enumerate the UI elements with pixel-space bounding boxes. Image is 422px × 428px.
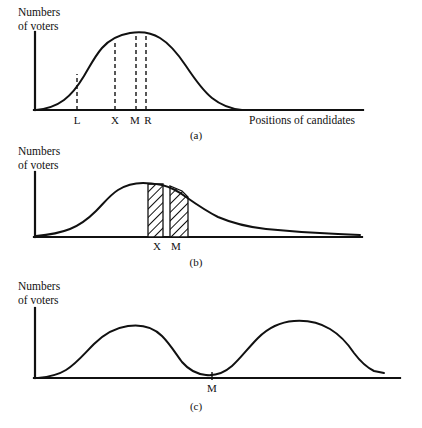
voter-distribution-figure: Numbers of voters L X M R Positions of c…	[0, 0, 422, 428]
panel-c-yaxis-label-line2: of voters	[18, 294, 59, 306]
panel-a: Numbers of voters L X M R Positions of c…	[18, 6, 363, 142]
panel-c-distribution-curve	[38, 321, 384, 378]
panel-a-xaxis-label: Positions of candidates	[249, 114, 356, 126]
panel-a-caption: (a)	[190, 129, 203, 142]
panel-b: Numbers of voters X M (b)	[18, 145, 362, 269]
panel-c-label-M: M	[207, 382, 217, 394]
panel-c-caption: (c)	[190, 400, 203, 413]
panel-b-caption: (b)	[190, 256, 203, 269]
panel-c-yaxis-label-line1: Numbers	[18, 280, 61, 292]
panel-c: Numbers of voters M (c)	[18, 280, 400, 413]
panel-b-label-M: M	[171, 240, 181, 252]
panel-a-yaxis-label-line2: of voters	[18, 20, 59, 32]
panel-b-distribution-curve	[36, 183, 360, 236]
panel-a-distribution-curve	[36, 32, 252, 110]
panel-b-yaxis-label-line1: Numbers	[18, 145, 61, 157]
panel-a-yaxis-label-line1: Numbers	[18, 6, 61, 18]
panel-b-label-X: X	[153, 240, 161, 252]
panel-a-label-M: M	[130, 114, 140, 126]
panel-b-shaded-region-M	[170, 186, 188, 237]
panel-a-label-R: R	[144, 114, 152, 126]
panel-b-yaxis-label-line2: of voters	[18, 159, 59, 171]
panel-a-label-X: X	[111, 114, 119, 126]
panel-a-label-L: L	[74, 114, 81, 126]
panel-b-shaded-region-X	[148, 184, 163, 237]
figure-container: Numbers of voters L X M R Positions of c…	[0, 0, 422, 428]
